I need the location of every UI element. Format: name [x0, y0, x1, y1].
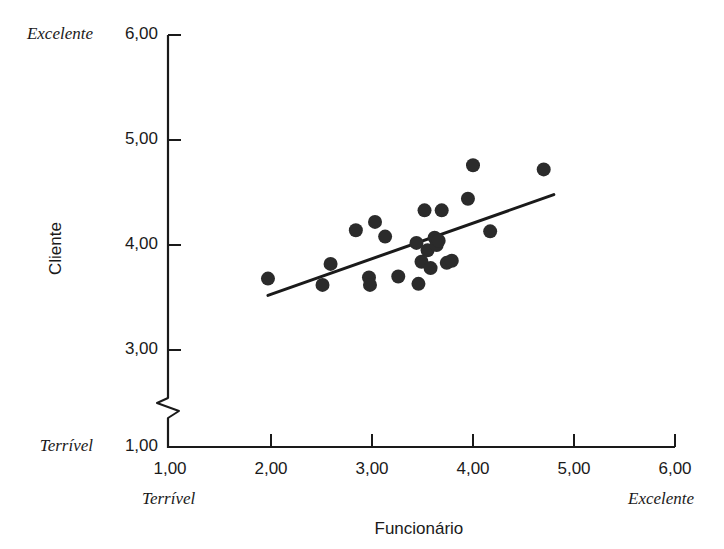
y-anchor-label-low: Terrível: [0, 436, 93, 456]
x-axis-title: Funcionário: [375, 519, 464, 539]
y-tick-label-1: 1,00: [100, 436, 158, 456]
y-tick-label-4: 4,00: [100, 234, 158, 254]
x-tick-label-2: 2,00: [236, 459, 306, 479]
x-anchor-label-low: Terrível: [142, 489, 195, 509]
data-points-group: [261, 158, 551, 292]
y-axis-title: Cliente: [46, 222, 66, 275]
data-point: [324, 257, 338, 271]
x-tick-label-1: 1,00: [135, 459, 205, 479]
y-anchor-label-high: Excelente: [0, 24, 93, 44]
data-point: [418, 203, 432, 217]
x-tick-label-3: 3,00: [337, 459, 407, 479]
data-point: [483, 224, 497, 238]
data-point: [466, 158, 480, 172]
y-tick-label-3: 3,00: [100, 339, 158, 359]
data-point: [537, 162, 551, 176]
data-point: [391, 270, 405, 284]
data-point: [349, 223, 363, 237]
data-point: [378, 230, 392, 244]
data-point: [411, 277, 425, 291]
data-point: [461, 192, 475, 206]
data-point: [316, 278, 330, 292]
data-point: [363, 278, 377, 292]
x-tick-label-5: 5,00: [539, 459, 609, 479]
data-point: [445, 254, 459, 268]
y-axis-break-icon: [157, 398, 179, 418]
data-point: [432, 234, 446, 248]
data-point: [261, 272, 275, 286]
scatter-chart-figure: 6,00 5,00 4,00 3,00 1,00 Excelente Terrí…: [0, 0, 724, 549]
x-tick-label-4: 4,00: [438, 459, 508, 479]
data-point: [368, 215, 382, 229]
x-tick-label-6: 6,00: [640, 459, 710, 479]
x-anchor-label-high: Excelente: [628, 489, 694, 509]
data-point: [435, 203, 449, 217]
y-tick-label-5: 5,00: [100, 129, 158, 149]
y-tick-label-6: 6,00: [100, 24, 158, 44]
data-point: [424, 261, 438, 275]
